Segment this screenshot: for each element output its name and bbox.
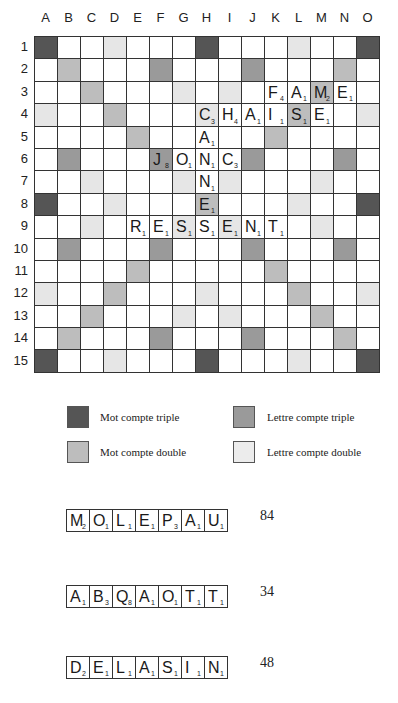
board-cell-A4[interactable] <box>35 104 58 126</box>
board-cell-J3[interactable] <box>242 82 265 104</box>
board-tile-H7[interactable]: N1 <box>196 171 219 193</box>
board-cell-J14[interactable] <box>242 328 265 350</box>
board-cell-F14[interactable] <box>150 328 173 350</box>
board-cell-C6[interactable] <box>81 149 104 171</box>
board-cell-H14[interactable] <box>196 328 219 350</box>
board-cell-J2[interactable] <box>242 59 265 81</box>
board-cell-O4[interactable] <box>357 104 380 126</box>
board-cell-A6[interactable] <box>35 149 58 171</box>
board-cell-A7[interactable] <box>35 171 58 193</box>
board-tile-I9[interactable]: E1 <box>219 216 242 238</box>
board-cell-F4[interactable] <box>150 104 173 126</box>
board-cell-J13[interactable] <box>242 306 265 328</box>
board-cell-H13[interactable] <box>196 306 219 328</box>
board-cell-M8[interactable] <box>311 194 334 216</box>
board-tile-H5[interactable]: A1 <box>196 127 219 149</box>
board-cell-O5[interactable] <box>357 127 380 149</box>
board-cell-E1[interactable] <box>127 37 150 59</box>
board-cell-A10[interactable] <box>35 239 58 261</box>
board-cell-L11[interactable] <box>288 261 311 283</box>
board-cell-N2[interactable] <box>334 59 357 81</box>
board-cell-G3[interactable] <box>173 82 196 104</box>
board-cell-M5[interactable] <box>311 127 334 149</box>
board-tile-G6[interactable]: O1 <box>173 149 196 171</box>
rack-tile[interactable]: S1 <box>159 657 182 679</box>
board-cell-M14[interactable] <box>311 328 334 350</box>
board-cell-E5[interactable] <box>127 127 150 149</box>
board-cell-J5[interactable] <box>242 127 265 149</box>
board-cell-C2[interactable] <box>81 59 104 81</box>
board-cell-I14[interactable] <box>219 328 242 350</box>
board-cell-A12[interactable] <box>35 283 58 305</box>
board-cell-I2[interactable] <box>219 59 242 81</box>
board-cell-G7[interactable] <box>173 171 196 193</box>
rack-tile[interactable]: A1 <box>136 586 159 608</box>
board-cell-E8[interactable] <box>127 194 150 216</box>
board-cell-O10[interactable] <box>357 239 380 261</box>
board-cell-A11[interactable] <box>35 261 58 283</box>
rack-tile[interactable]: P3 <box>159 510 182 532</box>
board-cell-D4[interactable] <box>104 104 127 126</box>
board-cell-L5[interactable] <box>288 127 311 149</box>
board-cell-B15[interactable] <box>58 350 81 372</box>
board-cell-I5[interactable] <box>219 127 242 149</box>
board-cell-L15[interactable] <box>288 350 311 372</box>
board-cell-O15[interactable] <box>357 350 380 372</box>
board-cell-B10[interactable] <box>58 239 81 261</box>
board-tile-G9[interactable]: S1 <box>173 216 196 238</box>
board-cell-C15[interactable] <box>81 350 104 372</box>
board-cell-M7[interactable] <box>311 171 334 193</box>
board-cell-H12[interactable] <box>196 283 219 305</box>
board-cell-K13[interactable] <box>265 306 288 328</box>
board-cell-F13[interactable] <box>150 306 173 328</box>
board-cell-F8[interactable] <box>150 194 173 216</box>
board-cell-O3[interactable] <box>357 82 380 104</box>
board-tile-J4[interactable]: A1 <box>242 104 265 126</box>
board-cell-F2[interactable] <box>150 59 173 81</box>
board-tile-H9[interactable]: S1 <box>196 216 219 238</box>
board-cell-A2[interactable] <box>35 59 58 81</box>
board-cell-B8[interactable] <box>58 194 81 216</box>
board-cell-F15[interactable] <box>150 350 173 372</box>
board-cell-M10[interactable] <box>311 239 334 261</box>
board-cell-H3[interactable] <box>196 82 219 104</box>
board-cell-K2[interactable] <box>265 59 288 81</box>
board-cell-H10[interactable] <box>196 239 219 261</box>
board-cell-G11[interactable] <box>173 261 196 283</box>
board-cell-I7[interactable] <box>219 171 242 193</box>
board-cell-J10[interactable] <box>242 239 265 261</box>
board-cell-K7[interactable] <box>265 171 288 193</box>
board-cell-M11[interactable] <box>311 261 334 283</box>
board-cell-E10[interactable] <box>127 239 150 261</box>
board-tile-J9[interactable]: N1 <box>242 216 265 238</box>
rack-tile[interactable]: N1 <box>205 657 228 679</box>
board-cell-K1[interactable] <box>265 37 288 59</box>
board-cell-K14[interactable] <box>265 328 288 350</box>
board-tile-K3[interactable]: F4 <box>265 82 288 104</box>
board-cell-L6[interactable] <box>288 149 311 171</box>
board-cell-O12[interactable] <box>357 283 380 305</box>
board-cell-E2[interactable] <box>127 59 150 81</box>
board-cell-D8[interactable] <box>104 194 127 216</box>
board-cell-G13[interactable] <box>173 306 196 328</box>
board-cell-N11[interactable] <box>334 261 357 283</box>
board-cell-D11[interactable] <box>104 261 127 283</box>
board-cell-E6[interactable] <box>127 149 150 171</box>
rack-tile[interactable]: A1 <box>182 510 205 532</box>
board-cell-B14[interactable] <box>58 328 81 350</box>
board-cell-A5[interactable] <box>35 127 58 149</box>
rack-tile[interactable]: O1 <box>90 510 113 532</box>
board-cell-L1[interactable] <box>288 37 311 59</box>
board-cell-E11[interactable] <box>127 261 150 283</box>
rack-tile[interactable]: A1 <box>136 657 159 679</box>
board-cell-C14[interactable] <box>81 328 104 350</box>
board-cell-C12[interactable] <box>81 283 104 305</box>
board-cell-F7[interactable] <box>150 171 173 193</box>
board-cell-M12[interactable] <box>311 283 334 305</box>
board-cell-I13[interactable] <box>219 306 242 328</box>
board-cell-E14[interactable] <box>127 328 150 350</box>
board-cell-B7[interactable] <box>58 171 81 193</box>
board-cell-C7[interactable] <box>81 171 104 193</box>
board-cell-D2[interactable] <box>104 59 127 81</box>
board-cell-I1[interactable] <box>219 37 242 59</box>
